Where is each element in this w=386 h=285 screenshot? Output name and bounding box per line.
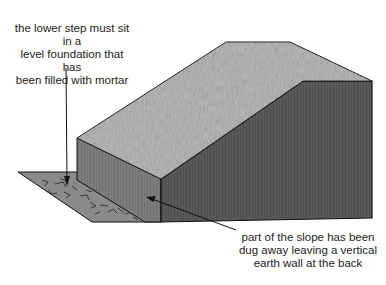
earth-wall-callout-label: part of the slope has been dug away leav… [238,231,378,270]
diagram-canvas: the lower step must sit in a level found… [0,0,386,285]
foundation-callout-label: the lower step must sit in a level found… [12,22,132,87]
